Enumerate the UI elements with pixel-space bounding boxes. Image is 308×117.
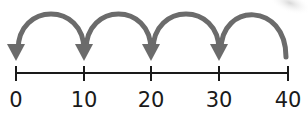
jump-arc-40-to-30 [221,15,286,57]
arrowhead-down-icon [75,44,93,61]
arrowhead-down-icon [210,44,228,61]
jump-arc-30-to-20 [153,14,219,50]
background-smudge [266,0,308,20]
tick-label-0: 0 [9,88,22,112]
tick-label-10: 10 [71,88,98,112]
number-line-diagram: 0 10 20 30 40 [0,0,308,117]
jump-arc-20-to-10 [86,14,151,50]
arrowhead-down-icon [7,44,25,61]
tick-label-40: 40 [275,88,302,112]
arrowheads [7,44,228,61]
tick-labels: 0 10 20 30 40 [9,88,301,112]
jump-arc-10-to-0 [18,14,84,50]
tick-label-30: 30 [206,88,233,112]
arrowhead-down-icon [142,44,160,61]
tick-label-20: 20 [138,88,165,112]
